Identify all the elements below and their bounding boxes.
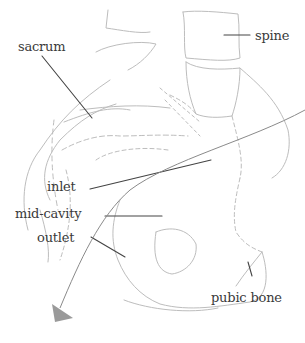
sacrum-leader [42, 56, 92, 118]
birth-path-curve [60, 110, 305, 308]
inlet-leader [90, 160, 211, 189]
label-pubic-bone: pubic bone [211, 291, 282, 304]
pelvis-diagram: sacrum spine inlet mid-cavity outlet pub… [0, 0, 305, 343]
label-spine: spine [255, 29, 289, 42]
arrowhead-icon [52, 304, 73, 322]
outlet-leader [91, 237, 125, 257]
label-outlet: outlet [37, 231, 74, 244]
label-inlet: inlet [47, 180, 76, 193]
label-mid-cavity: mid-cavity [15, 207, 81, 220]
label-sacrum: sacrum [18, 40, 65, 53]
